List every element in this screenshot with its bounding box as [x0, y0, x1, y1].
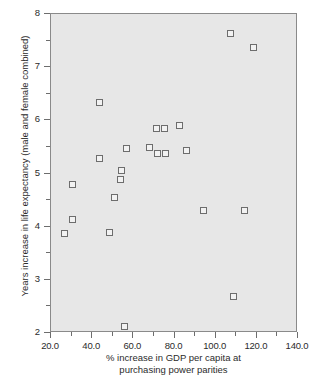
y-tick-major	[44, 13, 50, 14]
data-point	[241, 207, 248, 214]
x-tick-minor	[153, 332, 154, 336]
x-tick-minor	[235, 332, 236, 336]
x-tick-label: 140.0	[277, 340, 317, 351]
x-tick-label: 100.0	[195, 340, 235, 351]
data-point	[118, 167, 125, 174]
data-point	[111, 194, 118, 201]
x-axis-label: % increase in GDP per capita at purchasi…	[50, 352, 297, 376]
y-tick-minor	[46, 252, 50, 253]
x-tick-major	[132, 332, 133, 338]
data-point	[96, 155, 103, 162]
data-point	[153, 125, 160, 132]
plot-area	[50, 13, 297, 332]
y-tick-minor	[46, 199, 50, 200]
scatter-chart-figure: 20.040.060.080.0100.0120.0140.0 2345678 …	[0, 0, 318, 388]
x-tick-minor	[194, 332, 195, 336]
x-tick-major	[50, 332, 51, 338]
data-point	[121, 323, 128, 330]
data-point	[96, 99, 103, 106]
y-tick-label: 2	[22, 326, 40, 337]
data-point	[161, 125, 168, 132]
x-tick-major	[91, 332, 92, 338]
data-point	[154, 150, 161, 157]
y-tick-major	[44, 279, 50, 280]
y-tick-major	[44, 66, 50, 67]
x-tick-major	[297, 332, 298, 338]
data-point	[200, 207, 207, 214]
y-tick-minor	[46, 146, 50, 147]
x-tick-label: 20.0	[30, 340, 70, 351]
y-tick-minor	[46, 305, 50, 306]
data-point	[117, 176, 124, 183]
y-tick-major	[44, 173, 50, 174]
x-tick-minor	[71, 332, 72, 336]
x-tick-major	[256, 332, 257, 338]
data-point	[176, 122, 183, 129]
x-tick-label: 120.0	[236, 340, 276, 351]
x-tick-label: 80.0	[154, 340, 194, 351]
data-point	[123, 145, 130, 152]
y-tick-major	[44, 226, 50, 227]
data-point	[230, 293, 237, 300]
x-axis-label-line-2: purchasing power parities	[50, 364, 297, 376]
data-point	[69, 216, 76, 223]
x-axis-label-line-1: % increase in GDP per capita at	[50, 352, 297, 364]
y-tick-label: 8	[22, 7, 40, 18]
data-point	[162, 150, 169, 157]
data-point	[146, 144, 153, 151]
data-point	[61, 230, 68, 237]
y-tick-major	[44, 332, 50, 333]
y-tick-minor	[46, 40, 50, 41]
data-point	[106, 229, 113, 236]
x-tick-label: 40.0	[71, 340, 111, 351]
data-point	[69, 181, 76, 188]
x-tick-major	[174, 332, 175, 338]
y-tick-major	[44, 119, 50, 120]
x-tick-label: 60.0	[112, 340, 152, 351]
x-tick-major	[215, 332, 216, 338]
data-point	[250, 44, 257, 51]
x-tick-minor	[112, 332, 113, 336]
data-point	[227, 30, 234, 37]
x-tick-minor	[276, 332, 277, 336]
y-axis-label: Years increase in life expectancy (male …	[19, 47, 30, 297]
data-point	[183, 147, 190, 154]
y-tick-minor	[46, 93, 50, 94]
